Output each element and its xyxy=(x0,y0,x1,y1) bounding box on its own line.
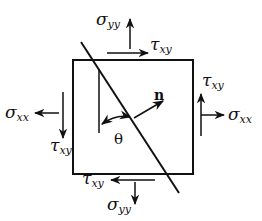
theta-arc-arrow xyxy=(102,116,130,124)
label-sigma-yy-bottom: σyy xyxy=(107,194,132,216)
label-sigma-yy-top: σyy xyxy=(96,9,121,31)
cutting-plane-line xyxy=(81,42,179,193)
stress-element-diagram: σyy τxy τxy σxx σxx τxy τxy σyy n θ xyxy=(0,0,262,221)
label-normal-n: n xyxy=(154,87,164,103)
label-tau-xy-top: τxy xyxy=(150,34,173,56)
label-tau-xy-left: τxy xyxy=(50,135,73,157)
label-tau-xy-bottom: τxy xyxy=(82,168,105,190)
label-tau-xy-right: τxy xyxy=(202,70,225,92)
label-sigma-xx-right: σxx xyxy=(228,104,253,126)
stress-element-box xyxy=(73,60,193,174)
normal-vector-arrow xyxy=(134,101,163,118)
label-theta: θ xyxy=(114,130,123,148)
label-sigma-xx-left: σxx xyxy=(5,102,30,124)
